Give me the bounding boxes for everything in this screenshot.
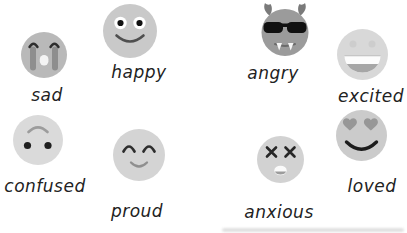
- dizzy-face-x-eyes-icon: [257, 136, 304, 183]
- label-angry: angry: [247, 63, 299, 83]
- crying-face-icon: [21, 32, 67, 78]
- grinning-face-icon: [337, 29, 388, 80]
- heart-eyes-face-icon: [336, 110, 387, 161]
- emotion-emoji-chart: sad happy angry: [0, 0, 407, 233]
- label-proud: proud: [111, 201, 163, 221]
- label-confused: confused: [4, 176, 85, 196]
- label-sad: sad: [31, 85, 63, 105]
- upside-down-face-icon: [13, 115, 63, 165]
- devil-face-sunglasses-icon: [259, 2, 311, 57]
- label-happy: happy: [111, 62, 166, 82]
- smiling-face-icon: [103, 4, 157, 58]
- smiling-closed-eyes-face-icon: [113, 129, 165, 181]
- scan-smudge-artifact: [222, 228, 404, 232]
- label-excited: excited: [338, 86, 404, 106]
- label-loved: loved: [348, 176, 397, 196]
- label-anxious: anxious: [244, 202, 314, 222]
